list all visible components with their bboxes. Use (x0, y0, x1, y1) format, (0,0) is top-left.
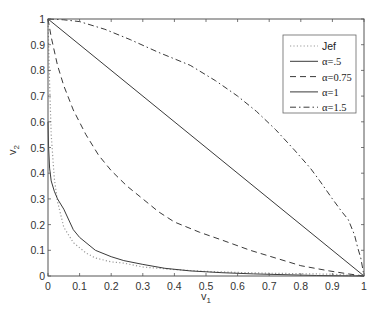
y-tick-label: 0.8 (30, 64, 45, 76)
y-tick-label: 0.9 (30, 39, 45, 51)
y-tick-label: 0.7 (30, 90, 45, 102)
y-tick-label: 0.1 (30, 244, 45, 256)
legend-label: Jef (322, 40, 336, 52)
legend-label: α=0.75 (322, 72, 352, 83)
legend-label: α=.5 (322, 56, 341, 67)
x-tick-label: 0.7 (262, 280, 277, 292)
y-tick-label: 0 (39, 270, 45, 282)
y-tick-label: 0.4 (30, 167, 45, 179)
y-tick-label: 1 (39, 13, 45, 25)
legend-label: α=1.5 (322, 102, 347, 113)
legend: Jefα=.5α=0.75α=1α=1.5 (283, 35, 356, 113)
x-tick-label: 0.9 (325, 280, 340, 292)
y-tick-label: 0.6 (30, 116, 45, 128)
x-tick-label: 0.4 (167, 280, 182, 292)
x-tick-label: 0.8 (293, 280, 308, 292)
x-tick-label: 0.3 (135, 280, 150, 292)
x-tick-label: 0.2 (104, 280, 119, 292)
x-tick-label: 0 (45, 280, 51, 292)
y-tick-label: 0.2 (30, 219, 45, 231)
x-tick-label: 1 (361, 280, 367, 292)
legend-label: α=1 (322, 87, 339, 98)
y-tick-label: 0.3 (30, 193, 45, 205)
x-tick-label: 0.1 (72, 280, 87, 292)
x-tick-label: 0.6 (230, 280, 245, 292)
y-tick-label: 0.5 (30, 142, 45, 154)
y-axis-label: v2 (6, 144, 21, 155)
x-axis-label: v1 (201, 290, 212, 305)
superellipse-chart: 00.10.20.30.40.50.60.70.80.91 00.10.20.3… (0, 0, 383, 319)
